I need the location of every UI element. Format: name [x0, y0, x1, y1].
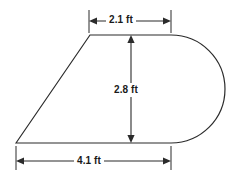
figure-container: 2.1 ft 2.8 ft 4.1 ft	[0, 0, 237, 178]
bottom-dimension-arrow-left-icon	[16, 157, 24, 164]
top-dimension-arrow-right-icon	[163, 17, 171, 24]
bottom-dimension-label: 4.1 ft	[74, 155, 104, 167]
top-dimension-arrow-left-icon	[89, 17, 97, 24]
bottom-dimension-arrow-right-icon	[163, 157, 171, 164]
height-dimension-label: 2.8 ft	[110, 83, 142, 97]
top-dimension-label: 2.1 ft	[106, 14, 136, 26]
